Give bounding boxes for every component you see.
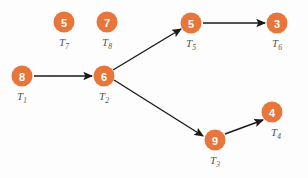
node-value: 5 xyxy=(188,18,194,30)
node-label-t5: T5 xyxy=(186,37,196,52)
graph-node-t7[interactable]: 5 xyxy=(54,12,75,33)
graph-svg: T18T26T39T44T55T63T75T87 xyxy=(0,0,308,178)
node-label-t7: T7 xyxy=(59,36,69,51)
node-value: 5 xyxy=(61,17,67,29)
node-value: 3 xyxy=(274,18,280,30)
node-label-subscript: 8 xyxy=(108,42,112,51)
nodes-layer: T18T26T39T44T55T63T75T87 xyxy=(12,12,288,169)
edge-t2-t3 xyxy=(114,80,203,136)
graph-node-t3[interactable]: 9 xyxy=(205,130,226,151)
graph-node-t8[interactable]: 7 xyxy=(97,12,118,33)
node-label-t6: T6 xyxy=(272,37,282,52)
diagram-canvas: T18T26T39T44T55T63T75T87 xyxy=(0,0,308,178)
node-label-t1: T1 xyxy=(17,90,27,105)
node-label-t4: T4 xyxy=(271,126,281,141)
node-value: 8 xyxy=(19,71,25,83)
node-label-subscript: 1 xyxy=(23,96,27,105)
node-value: 4 xyxy=(269,107,276,119)
graph-node-t4[interactable]: 4 xyxy=(262,102,283,123)
node-label-subscript: 3 xyxy=(215,160,220,169)
graph-node-t1[interactable]: 8 xyxy=(12,66,33,87)
node-label-t2: T2 xyxy=(99,90,109,105)
graph-node-t2[interactable]: 6 xyxy=(94,66,115,87)
node-value: 6 xyxy=(101,71,107,83)
edges-layer xyxy=(34,23,265,136)
node-label-subscript: 5 xyxy=(192,43,196,52)
edge-t2-t5 xyxy=(113,29,181,70)
node-label-subscript: 7 xyxy=(65,42,69,51)
graph-node-t6[interactable]: 3 xyxy=(267,13,288,34)
node-value: 9 xyxy=(212,135,218,147)
node-value: 7 xyxy=(104,17,110,29)
node-label-subscript: 2 xyxy=(105,96,109,105)
node-label-subscript: 6 xyxy=(278,43,282,52)
edge-t3-t4 xyxy=(225,120,263,134)
node-label-subscript: 4 xyxy=(277,132,281,141)
node-label-t8: T8 xyxy=(102,36,112,51)
graph-node-t5[interactable]: 5 xyxy=(181,13,202,34)
node-label-t3: T3 xyxy=(210,154,220,169)
